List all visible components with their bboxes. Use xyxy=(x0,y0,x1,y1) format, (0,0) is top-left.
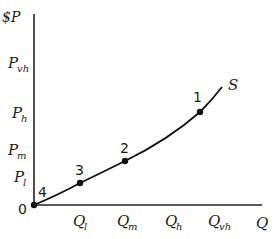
supply-curve-chart: 4 3 2 1 S $P 0 Q P vh P h P m P l Q l Q … xyxy=(0,0,275,239)
point-2 xyxy=(122,158,128,164)
svg-text:vh: vh xyxy=(17,63,29,74)
svg-text:vh: vh xyxy=(219,221,231,232)
svg-text:l: l xyxy=(23,177,26,188)
point-label-4: 4 xyxy=(38,184,47,200)
point-label-1: 1 xyxy=(193,89,202,105)
x-tick-q-vh: Q vh xyxy=(208,212,231,232)
y-axis-title: $P xyxy=(2,9,21,25)
y-tick-p-vh: P vh xyxy=(7,54,29,74)
curve-label-s: S xyxy=(228,76,238,94)
origin-label: 0 xyxy=(18,201,27,217)
x-tick-q-h: Q h xyxy=(165,212,182,232)
point-1 xyxy=(197,109,203,115)
point-label-2: 2 xyxy=(120,140,129,156)
svg-text:m: m xyxy=(128,221,137,232)
y-tick-p-h: P h xyxy=(11,104,27,124)
x-axis-title: Q xyxy=(256,214,268,232)
svg-text:h: h xyxy=(21,113,27,124)
x-tick-q-l: Q l xyxy=(73,212,87,232)
svg-text:l: l xyxy=(84,221,87,232)
point-label-3: 3 xyxy=(75,162,84,178)
point-4 xyxy=(31,202,37,208)
y-tick-p-m: P m xyxy=(7,141,26,161)
svg-text:m: m xyxy=(17,150,26,161)
x-tick-q-m: Q m xyxy=(117,212,137,232)
y-tick-p-l: P l xyxy=(13,168,26,188)
point-3 xyxy=(77,180,83,186)
svg-text:h: h xyxy=(176,221,182,232)
